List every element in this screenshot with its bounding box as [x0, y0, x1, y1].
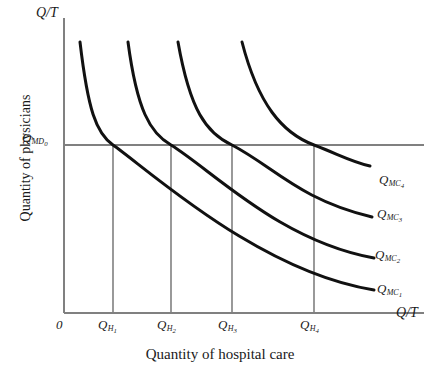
- qmc4-num: 4: [401, 182, 404, 189]
- qh3-num: 3: [233, 327, 236, 334]
- qmc4-sub: MC: [389, 179, 401, 188]
- qh3-base: Q: [218, 317, 227, 332]
- qmc2-base: Q: [375, 247, 384, 262]
- curve-label-qmc4: QMC4: [379, 173, 404, 186]
- qh2-base: Q: [157, 317, 166, 332]
- y-axis-end-label: Q/T: [36, 6, 58, 20]
- x-axis-title: Quantity of hospital care: [64, 346, 376, 363]
- qmc3-num: 3: [399, 216, 402, 223]
- qh2-num: 2: [172, 327, 175, 334]
- qmc1-base: Q: [377, 281, 386, 296]
- qmc2-sub: MC: [385, 254, 397, 263]
- qmc1-num: 1: [399, 291, 402, 298]
- qmc2-num: 2: [397, 257, 400, 264]
- curve-label-qmc3: QMC3: [377, 207, 402, 220]
- y-axis-title: Quantity of physicians: [18, 78, 34, 238]
- qmc1-sub: MC: [387, 288, 399, 297]
- origin-label: 0: [56, 318, 63, 331]
- x-tick-label-qh3: QH3: [218, 318, 237, 331]
- qh1-num: 1: [113, 327, 116, 334]
- x-tick-label-qh1: QH1: [98, 318, 117, 331]
- qmc4-base: Q: [379, 172, 388, 187]
- qmd0-num: 0: [44, 140, 47, 147]
- curve-qmc1: [80, 42, 374, 290]
- curve-label-qmc1: QMC1: [377, 282, 402, 295]
- x-tick-label-qh2: QH2: [157, 318, 176, 331]
- qh4-num: 4: [315, 327, 318, 334]
- x-tick-label-qh4: QH4: [300, 318, 319, 331]
- curve-qmc3: [178, 42, 372, 217]
- qmc3-sub: MC: [387, 213, 399, 222]
- isoquant-chart: Q/T Q/T 0 QMD0 QH1 QH2 QH3 QH4 QMC4 QMC3…: [0, 0, 435, 380]
- curve-label-qmc2: QMC2: [375, 248, 400, 261]
- curve-qmc4: [242, 42, 370, 166]
- qh1-base: Q: [98, 317, 107, 332]
- qmc3-base: Q: [377, 206, 386, 221]
- x-axis-end-label: Q/T: [396, 306, 418, 320]
- qh4-base: Q: [300, 317, 309, 332]
